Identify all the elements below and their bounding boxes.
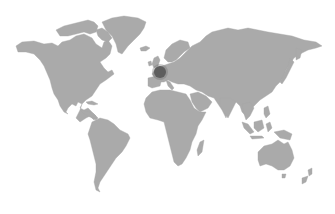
world-map: [0, 0, 335, 214]
region-ireland: [148, 61, 152, 66]
location-marker[interactable]: [154, 66, 166, 78]
region-borneo: [254, 120, 264, 132]
region-north-america: [16, 34, 114, 122]
region-tasmania: [282, 174, 286, 178]
region-cuba: [86, 101, 98, 105]
region-madagascar: [197, 140, 204, 156]
region-sulawesi: [266, 122, 272, 132]
region-australia: [258, 140, 294, 170]
region-new-zealand: [302, 168, 312, 184]
region-india: [220, 98, 236, 118]
region-south-america: [88, 118, 130, 192]
region-kamchatka: [296, 48, 302, 60]
region-iceland: [140, 46, 150, 51]
region-sumatra: [242, 122, 254, 134]
region-philippines: [264, 106, 270, 118]
region-new-guinea: [274, 130, 292, 140]
world-map-svg: [0, 0, 335, 214]
region-java: [250, 136, 264, 139]
region-arctic-islands: [56, 20, 98, 36]
